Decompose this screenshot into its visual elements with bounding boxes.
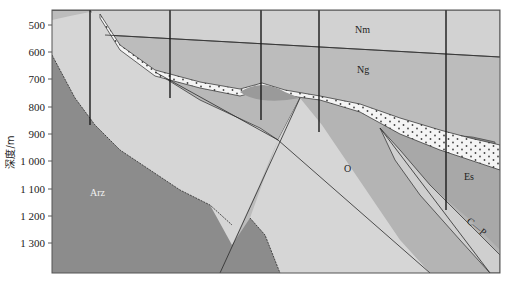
section-body — [52, 10, 500, 273]
label-o: O — [344, 163, 351, 174]
svg-text:1 000: 1 000 — [20, 155, 45, 167]
y-tick-700: 700 — [29, 73, 53, 85]
label-ng: Ng — [357, 64, 369, 75]
label-nm: Nm — [355, 24, 370, 35]
y-tick-1100: 1 100 — [20, 183, 52, 195]
cross-section-figure: 500 600 700 800 900 1 000 1 100 1 200 — [0, 0, 506, 281]
y-tick-1300: 1 300 — [20, 237, 52, 249]
y-tick-900: 900 — [29, 128, 53, 140]
y-tick-1000: 1 000 — [20, 155, 52, 167]
y-axis-label: 深度/m — [4, 135, 16, 168]
y-tick-600: 600 — [29, 46, 53, 58]
y-tick-800: 800 — [29, 101, 53, 113]
svg-text:700: 700 — [29, 73, 46, 85]
y-axis: 500 600 700 800 900 1 000 1 100 1 200 — [4, 19, 52, 249]
svg-text:600: 600 — [29, 46, 46, 58]
label-es: Es — [464, 171, 474, 182]
y-tick-1200: 1 200 — [20, 210, 52, 222]
svg-text:500: 500 — [29, 19, 46, 31]
svg-text:1 200: 1 200 — [20, 210, 45, 222]
svg-text:1 300: 1 300 — [20, 237, 45, 249]
label-arz: Arz — [90, 187, 106, 198]
svg-text:800: 800 — [29, 101, 46, 113]
svg-text:1 100: 1 100 — [20, 183, 45, 195]
svg-text:900: 900 — [29, 128, 46, 140]
y-tick-500: 500 — [29, 19, 53, 31]
